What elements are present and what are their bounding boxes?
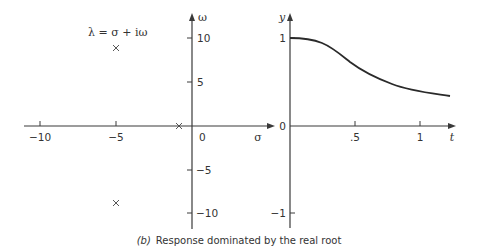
omega-axis-label: ω xyxy=(198,11,207,24)
t-tick-label: 1 xyxy=(417,131,424,143)
root-marker-upper-icon xyxy=(113,45,119,51)
y-axis-label: y xyxy=(278,11,286,24)
omega-tick-label: 5 xyxy=(197,76,204,88)
t-axis-label: t xyxy=(450,131,455,144)
sigma-tick-label: −10 xyxy=(29,131,51,143)
y-tick-label: −1 xyxy=(271,207,286,219)
sigma-tick-label: 0 xyxy=(199,131,206,143)
sigma-tick-label: −5 xyxy=(108,131,123,143)
y-axis-arrow-icon xyxy=(287,13,293,21)
figure-caption: (b)Response dominated by the real root xyxy=(137,235,342,246)
response-chart: .5 1 t 1 0 −1 y xyxy=(271,11,456,228)
caption-text: Response dominated by the real root xyxy=(156,235,342,246)
complex-plane-chart: −10 −5 0 σ 10 5 −5 −10 ω λ = σ + iω xyxy=(24,11,275,229)
omega-tick-label: 10 xyxy=(197,32,210,44)
response-curve xyxy=(290,38,450,96)
t-ticks xyxy=(355,121,420,126)
omega-tick-label: −10 xyxy=(196,207,218,219)
t-tick-label: .5 xyxy=(350,131,360,143)
omega-tick-label: −5 xyxy=(196,164,211,176)
omega-axis-arrow-icon xyxy=(189,13,195,21)
eigenvalue-annotation: λ = σ + iω xyxy=(88,26,147,39)
caption-prefix: (b) xyxy=(137,235,151,246)
y-tick-label: 1 xyxy=(279,32,286,44)
sigma-ticks xyxy=(40,121,116,126)
sigma-axis-label: σ xyxy=(254,131,262,144)
figure: −10 −5 0 σ 10 5 −5 −10 ω λ = σ + iω xyxy=(0,0,478,249)
y-tick-label: 0 xyxy=(279,120,286,132)
t-axis-arrow-icon xyxy=(448,123,456,129)
root-marker-lower-icon xyxy=(113,200,119,206)
sigma-axis-arrow-icon xyxy=(267,123,275,129)
